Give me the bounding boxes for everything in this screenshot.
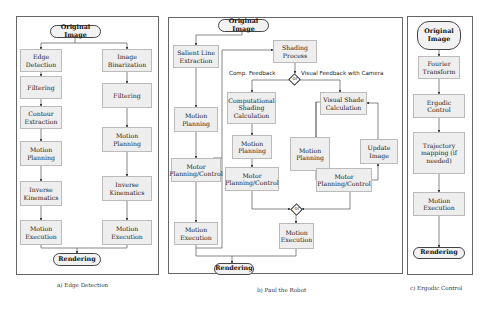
a-motion-planning-right: Motion Planning (102, 127, 152, 152)
b-salient-line-extraction: Salient Line Extraction (173, 45, 219, 68)
a-motion-planning-left: Motion Planning (20, 141, 62, 166)
c-ergodic-control: Ergodic Control (413, 94, 465, 118)
b-motor-planning-control-comp: Motor Planning/Control (225, 167, 279, 191)
a-inverse-kinematics-right: Inverse Kinematics (102, 176, 152, 201)
b-merge-decision-label: or (291, 206, 303, 211)
b-comp-feedback-label: Comp. Feedback (229, 70, 276, 76)
a-inverse-kinematics-left: Inverse Kinematics (20, 181, 62, 206)
b-motion-execution-right: Motion Execution (279, 223, 314, 249)
a-image-binarization: Image Binarization (102, 49, 152, 72)
b-update-image: Update Image (360, 139, 398, 164)
a-motion-execution-right: Motion Execution (102, 220, 152, 245)
a-start-original-image: Original Image (50, 25, 101, 38)
b-computational-shading-calculation: Computational Shading Calculation (227, 92, 276, 124)
a-caption: a) Edge Detection (57, 282, 108, 288)
c-motion-execution: Motion Execution (413, 192, 465, 216)
b-motor-planning-control-left: Motor Planning/Control (171, 158, 221, 182)
b-end-rendering: Rendering (214, 263, 254, 275)
c-start-original-image: Original Image (417, 21, 461, 50)
a-filtering-right: Filtering (102, 83, 152, 108)
a-edge-detection: Edge Detection (20, 49, 62, 72)
b-visual-shade-calculation: Visual Shade Calculation (320, 92, 367, 115)
b-shading-process: Shading Process (273, 40, 317, 63)
b-caption: b) Paul the Robot (257, 287, 306, 293)
a-filtering-left: Filtering (20, 76, 62, 99)
b-motion-planning-visual: Motion Planning (290, 137, 330, 171)
b-motion-execution-left: Motion Execution (174, 222, 218, 245)
a-motion-execution-left: Motion Execution (20, 220, 62, 245)
b-visual-feedback-label: Visual Feedback with Camera (301, 70, 384, 76)
c-caption: c) Ergodic Control (410, 285, 462, 291)
b-feedback-decision-label: or (289, 76, 301, 81)
b-motion-planning-left: Motion Planning (174, 107, 218, 132)
c-end-rendering: Rendering (413, 247, 465, 259)
a-contour-extraction: Contour Extraction (20, 106, 62, 129)
c-trajectory-mapping: Trajectory mapping (if needed) (413, 132, 465, 174)
a-end-rendering: Rendering (53, 253, 101, 266)
b-start-original-image: Original Image (218, 19, 269, 32)
b-motor-planning-control-visual: Motor Planning/Control (316, 168, 372, 192)
c-fourier-transform: Fourier Transform (418, 56, 460, 79)
b-motion-planning-comp: Motion Planning (232, 135, 272, 159)
